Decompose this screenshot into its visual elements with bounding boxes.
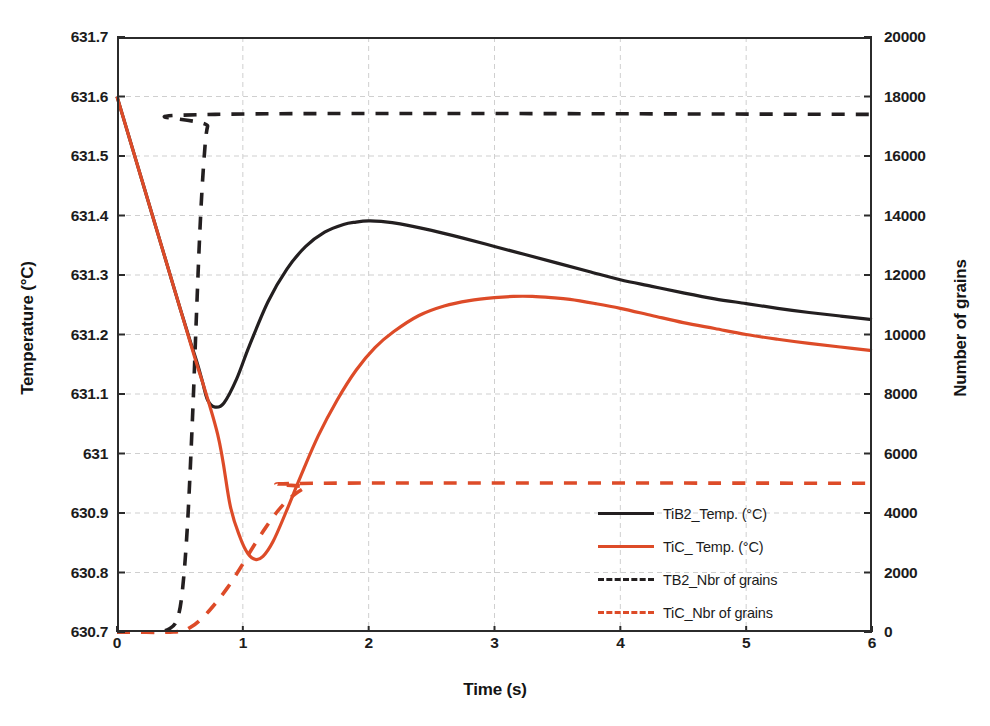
legend-label: TB2_Nbr of grains	[663, 572, 777, 588]
y-axis-right-title: Number of grains	[951, 198, 971, 458]
x-tick-label: 4	[616, 634, 624, 652]
x-tick-label: 6	[868, 634, 876, 652]
y-right-tick-label: 10000	[884, 326, 926, 344]
legend-item[interactable]: TiC_ Temp. (°C)	[598, 530, 866, 563]
y-right-tick-label: 4000	[884, 504, 917, 522]
y-left-tick-label: 630.7	[71, 623, 108, 641]
chart-legend: TiB2_Temp. (°C)TiC_ Temp. (°C)TB2_Nbr of…	[598, 497, 866, 629]
chart-container: Temperature (°C) Number of grains Time (…	[0, 0, 990, 726]
legend-swatch-solid-icon	[598, 512, 654, 515]
y-right-tick-label: 12000	[884, 266, 926, 284]
y-right-tick-label: 16000	[884, 147, 926, 165]
y-right-tick-label: 18000	[884, 88, 926, 106]
y-right-tick-label: 14000	[884, 207, 926, 225]
y-axis-left-title: Temperature (°C)	[18, 198, 38, 458]
x-tick-label: 5	[742, 634, 750, 652]
y-left-tick-label: 631.6	[71, 88, 108, 106]
y-left-tick-label: 630.8	[71, 564, 108, 582]
legend-swatch-dashed-icon	[598, 611, 654, 614]
y-right-tick-label: 0	[884, 623, 892, 641]
y-left-tick-label: 631.7	[71, 28, 108, 46]
legend-item[interactable]: TB2_Nbr of grains	[598, 563, 866, 596]
y-right-tick-label: 8000	[884, 385, 917, 403]
y-left-tick-label: 631.1	[71, 385, 108, 403]
y-left-tick-label: 631.3	[71, 266, 108, 284]
legend-item[interactable]: TiC_Nbr of grains	[598, 596, 866, 629]
legend-label: TiC_Nbr of grains	[663, 605, 773, 621]
legend-item[interactable]: TiB2_Temp. (°C)	[598, 497, 866, 530]
legend-label: TiB2_Temp. (°C)	[663, 506, 767, 522]
y-left-tick-label: 631.5	[71, 147, 108, 165]
y-right-tick-label: 20000	[884, 28, 926, 46]
y-left-tick-label: 630.9	[71, 504, 108, 522]
x-tick-label: 0	[113, 634, 121, 652]
legend-swatch-dashed-icon	[598, 578, 654, 581]
x-tick-label: 2	[364, 634, 372, 652]
y-left-tick-label: 631.2	[71, 326, 108, 344]
x-tick-label: 1	[239, 634, 247, 652]
y-left-tick-label: 631	[83, 445, 108, 463]
y-right-tick-label: 6000	[884, 445, 917, 463]
y-left-tick-label: 631.4	[71, 207, 108, 225]
legend-swatch-solid-icon	[598, 545, 654, 548]
legend-label: TiC_ Temp. (°C)	[663, 539, 763, 555]
y-right-tick-label: 2000	[884, 564, 917, 582]
x-tick-label: 3	[490, 634, 498, 652]
x-axis-title: Time (s)	[0, 680, 990, 700]
